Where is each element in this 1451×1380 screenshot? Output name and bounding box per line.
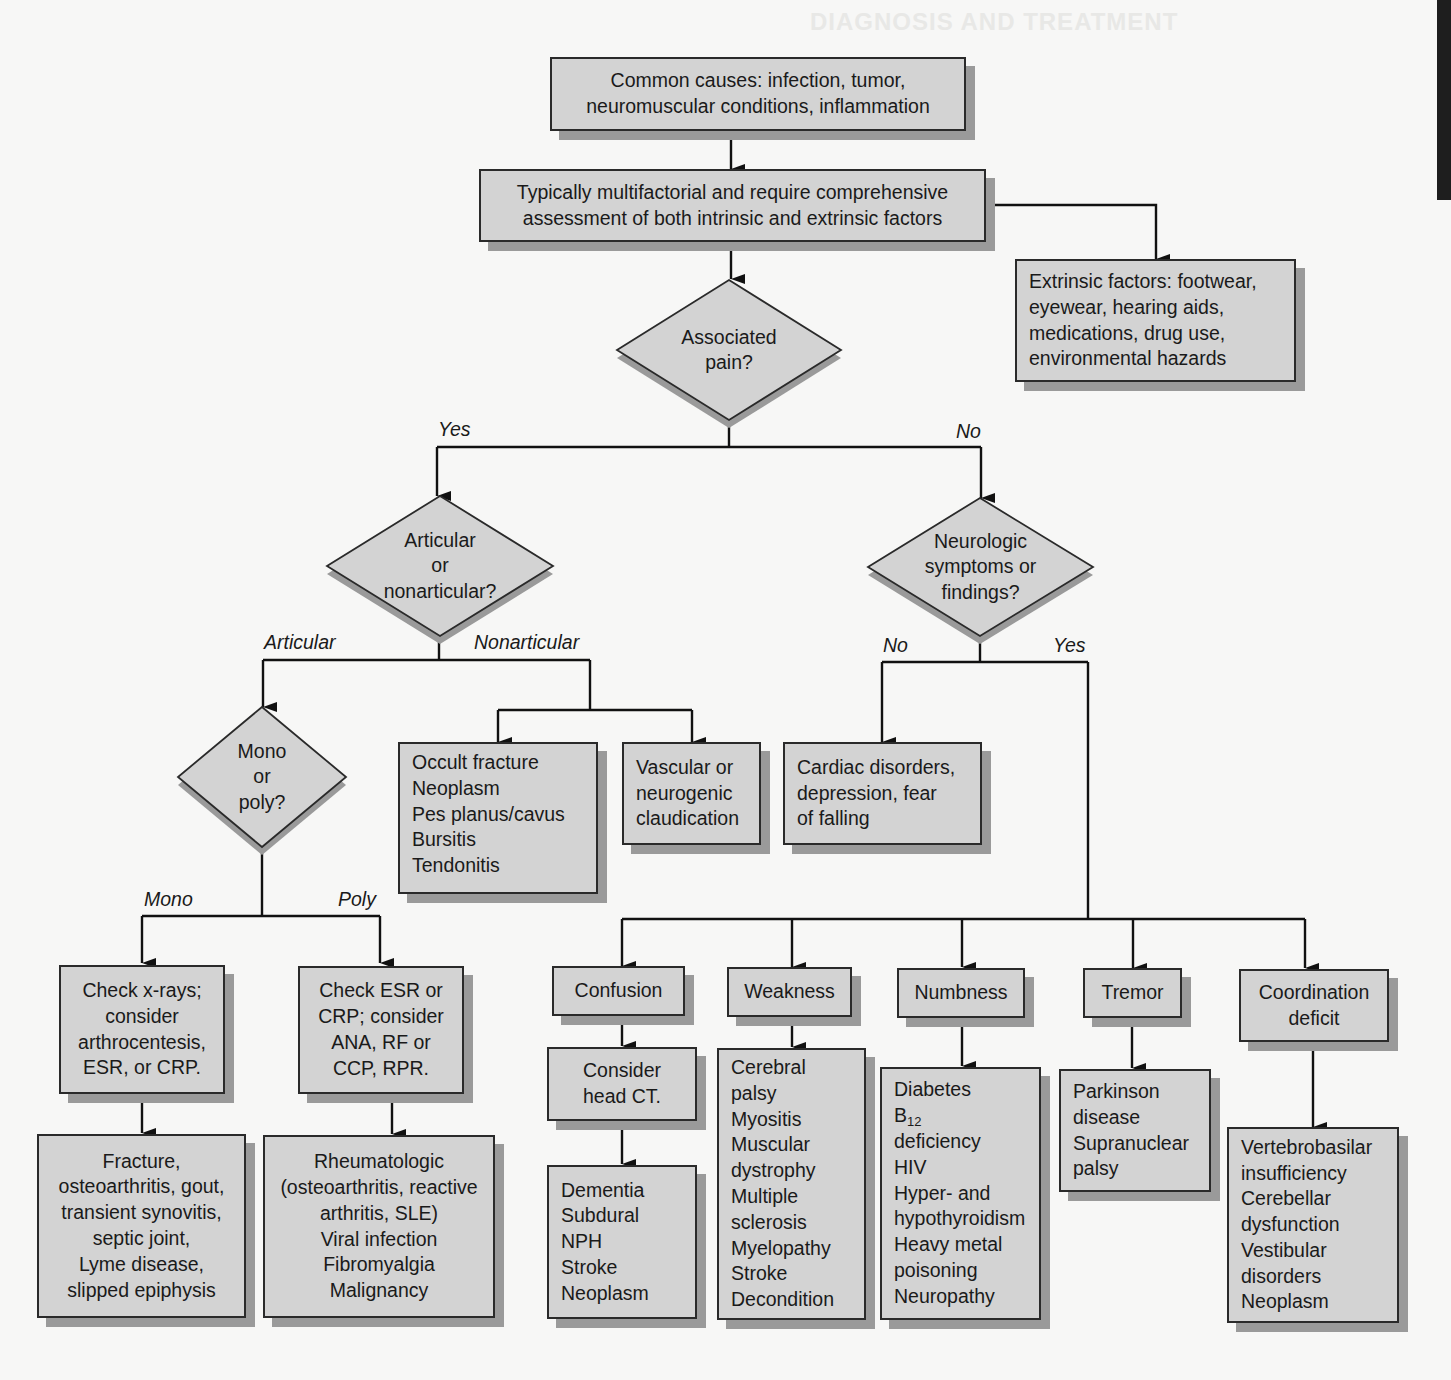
- box-line: Viral infection: [321, 1227, 438, 1253]
- box-line: head CT.: [583, 1084, 661, 1110]
- box-line: slipped epiphysis: [67, 1278, 216, 1304]
- tremor-diagnoses-box: Parkinson disease Supranuclear palsy: [1059, 1069, 1211, 1192]
- weakness-box: Weakness: [727, 967, 852, 1017]
- box-line: Stroke: [561, 1255, 617, 1281]
- box-line: Hyper- and: [894, 1181, 990, 1207]
- mono-diagnoses-box: Fracture, osteoarthritis, gout, transien…: [37, 1134, 246, 1318]
- box-line: NPH: [561, 1229, 602, 1255]
- tremor-box: Tremor: [1083, 968, 1182, 1018]
- box-line: Vestibular: [1241, 1238, 1327, 1264]
- diamond-line: poly?: [239, 790, 286, 816]
- box-line: deficit: [1289, 1006, 1340, 1032]
- associated-pain-diamond: Associated pain?: [617, 280, 841, 420]
- label-articular: Articular: [264, 631, 336, 654]
- box-line: Diabetes: [894, 1077, 971, 1103]
- diamond-line: Neurologic: [934, 529, 1027, 555]
- label-pain-no: No: [956, 420, 981, 443]
- box-line: disease: [1073, 1105, 1140, 1131]
- box-line: Parkinson: [1073, 1079, 1160, 1105]
- confusion-diagnoses-box: Dementia Subdural NPH Stroke Neoplasm: [547, 1165, 697, 1319]
- coordination-diagnoses-box: Vertebrobasilar insufficiency Cerebellar…: [1227, 1127, 1399, 1323]
- diamond-line: or: [253, 764, 270, 790]
- box-line: Bursitis: [412, 827, 476, 853]
- box-line: Tremor: [1101, 980, 1163, 1006]
- common-causes-box: Common causes: infection, tumor, neuromu…: [550, 57, 966, 131]
- box-line: Stroke: [731, 1261, 787, 1287]
- label-pain-yes: Yes: [438, 418, 471, 441]
- box-line: ESR, or CRP.: [83, 1055, 201, 1081]
- poly-workup-box: Check ESR or CRP; consider ANA, RF or CC…: [298, 966, 464, 1094]
- box-line: Typically multifactorial and require com…: [517, 180, 948, 206]
- coordination-box: Coordination deficit: [1239, 969, 1389, 1042]
- box-line: palsy: [731, 1081, 777, 1107]
- box-line: Decondition: [731, 1287, 834, 1313]
- box-line: Fibromyalgia: [323, 1252, 435, 1278]
- numbness-diagnoses-box: Diabetes B12 deficiency HIV Hyper- and h…: [880, 1067, 1041, 1320]
- box-line: Rheumatologic: [314, 1149, 444, 1175]
- box-line: hypothyroidism: [894, 1206, 1025, 1232]
- articular-diamond: Articular or nonarticular?: [327, 496, 553, 636]
- box-line: Coordination: [1259, 980, 1370, 1006]
- confusion-workup-box: Consider head CT.: [547, 1047, 697, 1121]
- box-line: deficiency: [894, 1129, 981, 1155]
- numbness-box: Numbness: [897, 968, 1025, 1018]
- diamond-line: Mono: [238, 739, 287, 765]
- box-line: palsy: [1073, 1156, 1119, 1182]
- box-line: assessment of both intrinsic and extrins…: [523, 206, 942, 232]
- box-line: Neoplasm: [412, 776, 500, 802]
- box-line: sclerosis: [731, 1210, 807, 1236]
- box-line: Neuropathy: [894, 1284, 995, 1310]
- mono-poly-diamond: Mono or poly?: [178, 707, 346, 847]
- box-line: neuromuscular conditions, inflammation: [586, 94, 930, 120]
- box-line: CRP; consider: [318, 1004, 444, 1030]
- diamond-line: symptoms or: [925, 554, 1037, 580]
- box-line: (osteoarthritis, reactive: [280, 1175, 477, 1201]
- box-line: ANA, RF or: [331, 1030, 431, 1056]
- poly-diagnoses-box: Rheumatologic (osteoarthritis, reactive …: [263, 1135, 495, 1318]
- box-line: Weakness: [744, 979, 835, 1005]
- box-line: Consider: [583, 1058, 661, 1084]
- extrinsic-factors-box: Extrinsic factors: footwear, eyewear, he…: [1015, 259, 1296, 382]
- box-line: Neoplasm: [561, 1281, 649, 1307]
- box-line: transient synovitis,: [61, 1200, 221, 1226]
- box-line: Cerebellar: [1241, 1186, 1331, 1212]
- box-line: CCP, RPR.: [333, 1056, 429, 1082]
- label-poly: Poly: [338, 888, 376, 911]
- box-line: Check ESR or: [319, 978, 443, 1004]
- box-line: Fracture,: [102, 1149, 180, 1175]
- box-line: Tendonitis: [412, 853, 500, 879]
- box-line: environmental hazards: [1029, 346, 1226, 372]
- box-line: Vertebrobasilar: [1241, 1135, 1372, 1161]
- box-line: Myelopathy: [731, 1236, 831, 1262]
- nonarticular-causes-box: Occult fracture Neoplasm Pes planus/cavu…: [398, 742, 598, 894]
- box-line: septic joint,: [93, 1226, 191, 1252]
- diamond-line: findings?: [941, 580, 1019, 606]
- box-line: eyewear, hearing aids,: [1029, 295, 1224, 321]
- confusion-box: Confusion: [552, 966, 685, 1016]
- diamond-line: nonarticular?: [384, 579, 497, 605]
- mono-workup-box: Check x-rays; consider arthrocentesis, E…: [59, 965, 225, 1094]
- label-mono: Mono: [144, 888, 193, 911]
- box-line: neurogenic: [636, 781, 733, 807]
- diamond-line: pain?: [705, 350, 753, 376]
- claudication-box: Vascular or neurogenic claudication: [622, 742, 761, 845]
- box-line: Subdural: [561, 1203, 639, 1229]
- box-line: depression, fear: [797, 781, 937, 807]
- label-neuro-yes: Yes: [1053, 634, 1086, 657]
- box-line: Lyme disease,: [79, 1252, 204, 1278]
- box-line: Confusion: [575, 978, 663, 1004]
- box-line: Numbness: [914, 980, 1007, 1006]
- box-line: Multiple: [731, 1184, 798, 1210]
- box-line: Check x-rays;: [82, 978, 201, 1004]
- box-line: Extrinsic factors: footwear,: [1029, 269, 1257, 295]
- box-line: Supranuclear: [1073, 1131, 1189, 1157]
- box-line: Dementia: [561, 1178, 644, 1204]
- box-line: Cardiac disorders,: [797, 755, 955, 781]
- box-line: HIV: [894, 1155, 927, 1181]
- neurologic-diamond: Neurologic symptoms or findings?: [868, 498, 1093, 636]
- box-line-b12: B12: [894, 1103, 921, 1129]
- box-line: arthrocentesis,: [78, 1030, 206, 1056]
- box-line: insufficiency: [1241, 1161, 1347, 1187]
- box-line: Common causes: infection, tumor,: [611, 68, 906, 94]
- box-line: claudication: [636, 806, 739, 832]
